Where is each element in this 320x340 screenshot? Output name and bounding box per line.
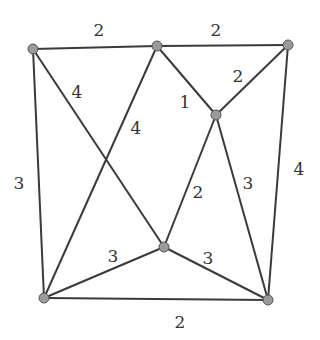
edge-weight-label: 2 (193, 182, 204, 202)
edge-A-F (33, 49, 44, 298)
edge-weight-label: 2 (175, 312, 186, 332)
edge-D-G (216, 115, 268, 300)
weighted-graph-diagram: 2221443423332 (0, 0, 320, 340)
edge-weight-label: 1 (180, 92, 191, 112)
edge-C-D (216, 45, 288, 115)
edge-A-B (33, 46, 157, 49)
edge-weight-label: 2 (233, 66, 244, 86)
graph-node-D (211, 110, 221, 120)
edge-E-G (164, 247, 268, 300)
edge-weight-label: 4 (72, 82, 83, 102)
edge-weight-label: 3 (108, 246, 119, 266)
graph-node-F (39, 293, 49, 303)
edge-weight-label: 2 (211, 20, 222, 40)
edge-weight-label: 3 (243, 173, 254, 193)
edge-F-G (44, 298, 268, 300)
edge-weight-label: 3 (203, 248, 214, 268)
edge-weight-label: 4 (294, 159, 305, 179)
edge-weight-label: 4 (131, 118, 142, 138)
edge-D-E (164, 115, 216, 247)
graph-node-A (28, 44, 38, 54)
edge-A-E (33, 49, 164, 247)
edge-B-F (44, 46, 157, 298)
edge-weight-label: 3 (14, 173, 25, 193)
edge-E-F (44, 247, 164, 298)
edge-B-C (157, 45, 288, 46)
graph-node-B (152, 41, 162, 51)
edge-C-G (268, 45, 288, 300)
edge-weight-label: 2 (94, 20, 105, 40)
graph-node-E (159, 242, 169, 252)
edge-weight-labels: 2221443423332 (14, 20, 305, 332)
graph-node-G (263, 295, 273, 305)
graph-node-C (283, 40, 293, 50)
